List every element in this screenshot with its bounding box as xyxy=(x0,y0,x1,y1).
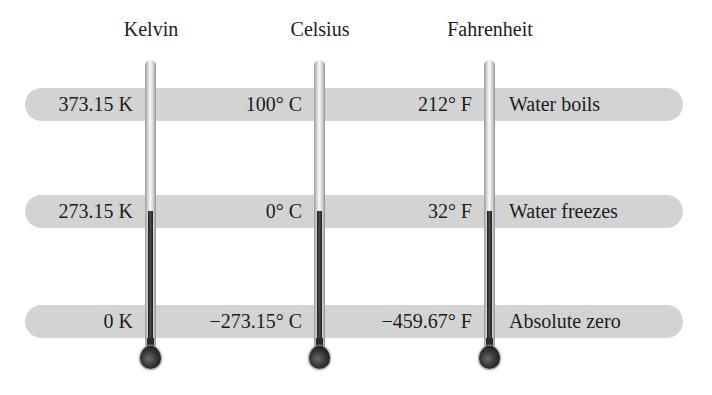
event-label: Absolute zero xyxy=(509,305,621,338)
event-label: Water boils xyxy=(509,88,600,121)
thermometer-tube xyxy=(314,60,325,360)
fahrenheit-value: 32° F xyxy=(330,195,472,228)
kelvin-value: 373.15 K xyxy=(25,88,133,121)
kelvin-value: 0 K xyxy=(25,305,133,338)
celsius-value: −273.15° C xyxy=(160,305,302,338)
thermometer-bulb-icon xyxy=(309,346,330,369)
event-label: Water freezes xyxy=(509,195,618,228)
thermometer-bulb-icon xyxy=(140,346,161,369)
celsius-value: 0° C xyxy=(160,195,302,228)
kelvin-value: 273.15 K xyxy=(25,195,133,228)
header-fahrenheit: Fahrenheit xyxy=(447,15,533,43)
celsius-value: 100° C xyxy=(160,88,302,121)
thermometer-bulb-icon xyxy=(479,346,500,369)
header-celsius: Celsius xyxy=(291,15,350,43)
fahrenheit-value: −459.67° F xyxy=(330,305,472,338)
header-kelvin: Kelvin xyxy=(124,15,178,43)
thermometer-tube xyxy=(145,60,156,360)
thermometer-tube xyxy=(484,60,495,360)
fahrenheit-value: 212° F xyxy=(330,88,472,121)
